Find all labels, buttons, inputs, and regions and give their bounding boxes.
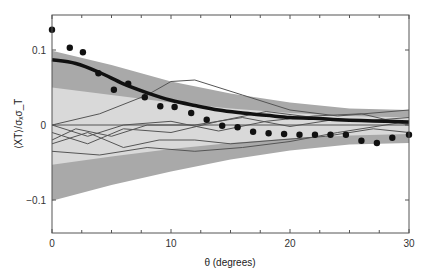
plot-area xyxy=(49,27,412,201)
y-tick-label: 0 xyxy=(40,120,46,131)
x-tick-label: 0 xyxy=(49,238,55,249)
data-point xyxy=(343,132,349,138)
data-point xyxy=(296,132,302,138)
data-point xyxy=(250,129,256,135)
data-point xyxy=(234,124,240,130)
x-tick-label: 10 xyxy=(165,238,177,249)
data-point xyxy=(327,132,333,138)
data-point xyxy=(358,138,364,144)
x-tick-label: 20 xyxy=(284,238,296,249)
data-point xyxy=(95,70,101,76)
data-point xyxy=(204,117,210,123)
y-tick-label: 0.1 xyxy=(32,45,46,56)
data-point xyxy=(188,110,194,116)
x-tick-label: 30 xyxy=(403,238,415,249)
data-point xyxy=(157,103,163,109)
data-point xyxy=(171,104,177,110)
data-point xyxy=(67,45,73,51)
data-point xyxy=(389,135,395,141)
y-tick-label: −0.1 xyxy=(26,195,46,206)
data-point xyxy=(125,81,131,87)
y-axis-label: ⟨XT⟩/σₓσ_T xyxy=(13,99,24,150)
data-point xyxy=(265,130,271,136)
data-point xyxy=(219,123,225,129)
x-axis-label: θ (degrees) xyxy=(204,257,255,268)
data-point xyxy=(374,140,380,146)
data-point xyxy=(281,131,287,137)
data-point xyxy=(142,94,148,100)
data-point xyxy=(312,132,318,138)
data-point xyxy=(80,49,86,55)
correlation-chart: 0102030−0.100.1 θ (degrees) ⟨XT⟩/σₓσ_T xyxy=(0,0,430,272)
data-point xyxy=(111,87,117,93)
